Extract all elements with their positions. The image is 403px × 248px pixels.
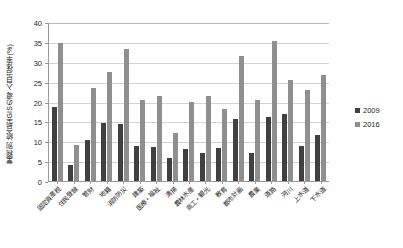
legend-label: 2009	[363, 106, 380, 115]
y-axis-title-text: 業務別 統合型GISの導入自治体率(%)	[5, 44, 15, 164]
bar-group	[115, 23, 131, 181]
x-axis-tick-labels: 固定資産税住民登録管財地籍消防防災建築医療・福祉清掃農林水産商工・観光教育都市計…	[48, 184, 329, 246]
x-axis-label-cell: 道路	[263, 184, 280, 246]
x-axis-label-cell: 教育	[213, 184, 230, 246]
bar-group	[230, 23, 246, 181]
bar-2009	[118, 124, 123, 181]
x-axis-label-cell: 管財	[81, 184, 98, 246]
bar-2016	[74, 145, 79, 181]
bar-group	[131, 23, 147, 181]
bar-groups	[49, 23, 329, 181]
y-axis-tick-label: 25	[16, 78, 42, 87]
bar-group	[197, 23, 213, 181]
bar-2009	[101, 123, 106, 181]
x-axis-label-cell: 農業	[246, 184, 263, 246]
x-axis-label-cell: 建築	[131, 184, 148, 246]
bar-2009	[52, 107, 57, 181]
bar-2009	[68, 165, 73, 181]
bar-group	[214, 23, 230, 181]
bar-group	[296, 23, 312, 181]
bar-2009	[282, 114, 287, 181]
bar-group	[164, 23, 180, 181]
y-axis-tick-label: 20	[16, 98, 42, 107]
bar-2016	[239, 56, 244, 181]
bar-group	[65, 23, 81, 181]
bar-2009	[151, 147, 156, 181]
x-axis-tick-label: 道路	[263, 185, 278, 200]
bar-2016	[288, 80, 293, 181]
y-axis-tick-label: 35	[16, 38, 42, 47]
y-axis-tick-label: 40	[16, 19, 42, 28]
x-axis-label-cell: 上水道	[296, 184, 313, 246]
bar-2016	[222, 109, 227, 181]
plot-area	[48, 23, 329, 182]
bar-2009	[183, 149, 188, 181]
y-axis-tick-label: 30	[16, 58, 42, 67]
y-axis-tick-label: 0	[16, 178, 42, 187]
bar-2009	[200, 153, 205, 181]
bar-2009	[233, 119, 238, 181]
bar-group	[49, 23, 65, 181]
bar-2016	[91, 88, 96, 181]
chart-legend: 20092016	[355, 106, 380, 134]
bar-group	[148, 23, 164, 181]
y-axis-tick-label: 5	[16, 158, 42, 167]
bar-2016	[173, 133, 178, 181]
x-axis-label-cell: 地籍	[98, 184, 115, 246]
x-axis-label-cell: 医療・福祉	[147, 184, 164, 246]
bar-2016	[124, 49, 129, 181]
bar-2016	[206, 96, 211, 181]
x-axis-label-cell: 住民登録	[65, 184, 82, 246]
legend-swatch	[355, 122, 360, 127]
bar-2016	[157, 96, 162, 181]
bar-group	[181, 23, 197, 181]
x-axis-label-cell: 消防防災	[114, 184, 131, 246]
y-axis-tick-label: 10	[16, 138, 42, 147]
bar-2009	[216, 148, 221, 181]
y-axis-tick-mark	[45, 182, 48, 183]
bar-2009	[85, 140, 90, 181]
bar-2016	[140, 100, 145, 181]
bar-2016	[189, 102, 194, 182]
x-axis-tick-label: 管財	[81, 185, 96, 200]
legend-entry[interactable]: 2016	[355, 120, 380, 129]
legend-label: 2016	[363, 120, 380, 129]
bar-group	[247, 23, 263, 181]
bar-2016	[272, 41, 277, 181]
bar-2016	[255, 100, 260, 181]
chart-figure: 業務別 統合型GISの導入自治体率(%) 0510152025303540 固定…	[0, 0, 403, 248]
bar-2009	[134, 146, 139, 181]
bar-2016	[321, 75, 326, 181]
bar-2016	[305, 90, 310, 181]
legend-swatch	[355, 108, 360, 113]
bar-group	[82, 23, 98, 181]
bar-2009	[249, 153, 254, 181]
bar-2009	[266, 117, 271, 181]
x-axis-label-cell: 河川	[279, 184, 296, 246]
bar-2016	[58, 43, 63, 181]
y-axis-tick-label: 15	[16, 118, 42, 127]
x-axis-tick-label: 農業	[246, 185, 261, 200]
bar-2009	[315, 135, 320, 181]
bar-group	[98, 23, 114, 181]
x-axis-label-cell: 下水道	[313, 184, 330, 246]
x-axis-label-cell: 農林水産	[180, 184, 197, 246]
x-axis-label-cell: 固定資産税	[48, 184, 65, 246]
legend-entry[interactable]: 2009	[355, 106, 380, 115]
bar-2016	[107, 72, 112, 181]
bar-group	[313, 23, 329, 181]
bar-group	[280, 23, 296, 181]
x-axis-label-cell: 都市計画	[230, 184, 247, 246]
bar-2009	[167, 158, 172, 181]
bar-2009	[299, 146, 304, 181]
bar-group	[263, 23, 279, 181]
x-axis-label-cell: 清掃	[164, 184, 181, 246]
x-axis-label-cell: 商工・観光	[197, 184, 214, 246]
